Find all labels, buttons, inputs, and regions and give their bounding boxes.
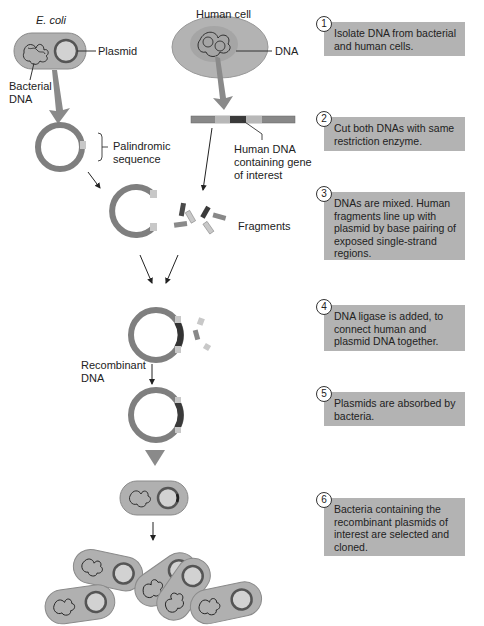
plasmid-with-insert	[131, 310, 211, 360]
plasmid-ring	[38, 125, 108, 169]
step-text: DNAs are mixed. Human fragments line up …	[334, 197, 456, 259]
step-box-1: Isolate DNA from bacterial and human cel…	[324, 22, 465, 56]
bacterial-dna-label-2: DNA	[9, 93, 32, 106]
step-number-5: 5	[316, 386, 332, 402]
cloned-bacteria	[43, 546, 265, 626]
step-box-6: Bacteria containing the recombinant plas…	[324, 498, 465, 556]
plasmid-label: Plasmid	[98, 45, 137, 58]
step-box-5: Plasmids are absorbed by bacteria.	[324, 392, 465, 426]
step-text: Bacteria containing the recombinant plas…	[334, 503, 449, 553]
step-number-4: 4	[316, 299, 332, 315]
palindromic-label-1: Palindromic	[113, 140, 170, 153]
human-dna-label-1: Human DNA	[234, 143, 296, 156]
human-dna-label-3: of interest	[234, 169, 282, 182]
arrow-down-icon	[49, 70, 70, 124]
step-box-3: DNAs are mixed. Human fragments line up …	[324, 192, 465, 260]
step-number-2: 2	[316, 111, 332, 127]
human-dna-strand	[191, 116, 295, 140]
human-dna-label-2: containing gene	[234, 156, 312, 169]
recombinant-label-1: Recombinant	[81, 359, 146, 372]
step-text: Isolate DNA from bacterial and human cel…	[334, 27, 456, 52]
step-text: Cut both DNAs with same restriction enzy…	[334, 122, 454, 147]
step-box-2: Cut both DNAs with same restriction enzy…	[324, 117, 465, 151]
human-cell	[172, 16, 272, 78]
dna-fragments	[174, 203, 226, 234]
step-box-4: DNA ligase is added, to connect human an…	[324, 305, 465, 351]
ecoli-label: E. coli	[36, 14, 66, 27]
recombinant-plasmid	[131, 390, 181, 440]
bacterial-dna-label-1: Bacterial	[9, 80, 52, 93]
step-text: Plasmids are absorbed by bacteria.	[334, 397, 455, 422]
step-number-6: 6	[316, 492, 332, 508]
recombinant-label-2: DNA	[81, 372, 104, 385]
human-cell-label: Human cell	[196, 8, 251, 21]
cut-plasmid	[112, 187, 157, 235]
bacterium	[120, 481, 188, 515]
arrow-down-icon	[145, 450, 165, 466]
dna-label: DNA	[275, 45, 298, 58]
palindromic-label-2: sequence	[113, 153, 161, 166]
step-text: DNA ligase is added, to connect human an…	[334, 310, 443, 347]
step-number-1: 1	[316, 16, 332, 32]
fragments-label: Fragments	[238, 220, 291, 233]
step-number-3: 3	[316, 186, 332, 202]
